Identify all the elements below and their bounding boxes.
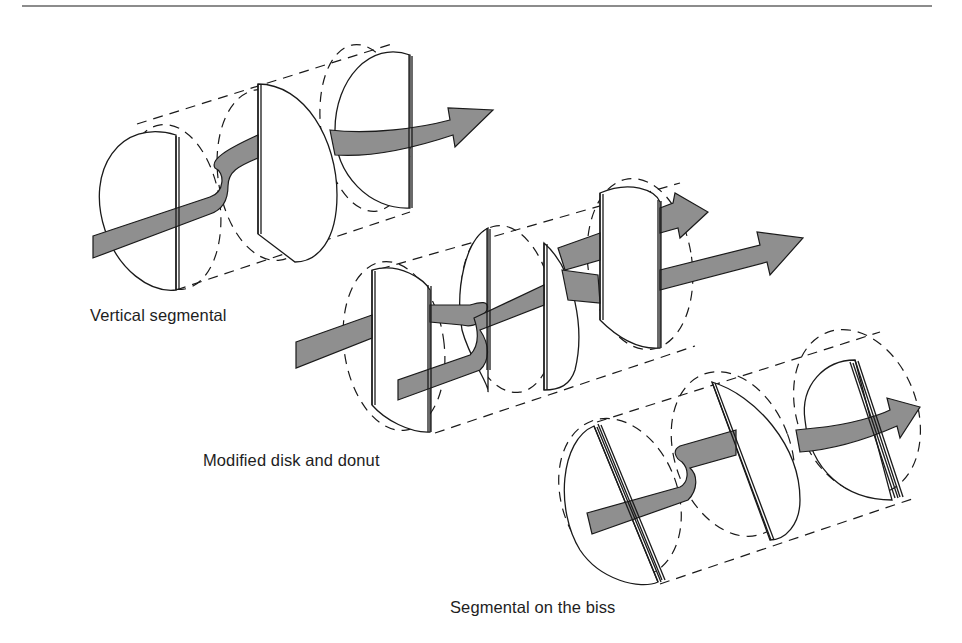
- caption-segmental-on-bias: Segmental on the biss: [450, 598, 615, 617]
- baffle-disk: [372, 268, 430, 432]
- vertical-segmental-diagram: [93, 39, 493, 296]
- caption-vertical-segmental: Vertical segmental: [90, 306, 227, 325]
- baffle-disk: [258, 84, 337, 262]
- figure: Vertical segmental Modified disk and don…: [0, 0, 962, 643]
- flow-arrow: [562, 270, 600, 303]
- baffle-disk: [600, 187, 660, 348]
- baffle-disk: [712, 382, 800, 540]
- flow-arrow: [558, 233, 600, 270]
- flow-arrow: [660, 232, 803, 290]
- caption-modified-disk-and-donut: Modified disk and donut: [203, 451, 380, 470]
- flow-arrow: [660, 193, 708, 238]
- top-rule-divider: [22, 5, 932, 7]
- segmental-on-bias-diagram: [537, 312, 942, 595]
- flow-arrow: [296, 315, 372, 368]
- baffle-disk: [99, 132, 176, 291]
